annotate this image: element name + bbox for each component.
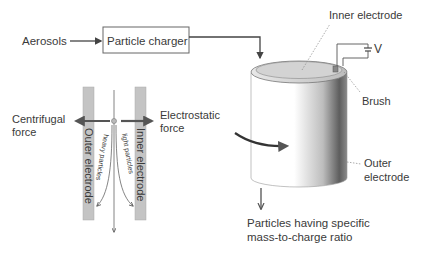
- output-label-line1: Particles having specific: [247, 217, 370, 229]
- circuit-wire-top: [337, 44, 368, 69]
- inner-electrode-callout: Inner electrode: [329, 9, 402, 21]
- inner-electrode-text: Inner electrode: [135, 128, 147, 201]
- circuit-wire-bottom: [343, 58, 368, 66]
- output-label-line2: mass-to-charge ratio: [247, 231, 352, 243]
- electrostatic-label-line2: force: [160, 122, 184, 134]
- heavy-particles-label: heavy particles: [94, 134, 110, 182]
- brush-contact: [333, 66, 338, 72]
- outer-electrode-leader: [347, 162, 361, 164]
- charger-to-device-arrow: [189, 37, 260, 58]
- aerosols-label: Aerosols: [22, 35, 67, 47]
- particle-dot: [112, 119, 117, 124]
- brush-label: Brush: [362, 95, 391, 107]
- centrifugal-label-line1: Centrifugal: [12, 113, 65, 125]
- centrifugal-label-line2: force: [12, 126, 36, 138]
- voltage-label: V: [374, 42, 382, 56]
- outer-electrode-callout-line2: electrode: [364, 171, 409, 183]
- electrostatic-label-line1: Electrostatic: [160, 109, 220, 121]
- particle-charger-label: Particle charger: [107, 35, 188, 47]
- outer-electrode-callout-line1: Outer: [364, 157, 392, 169]
- aerosol-particle-mass-analyzer-diagram: Aerosols Particle charger Outer electrod…: [0, 0, 421, 256]
- cylinder-body: [251, 73, 347, 187]
- inner-electrode-disc: [256, 62, 342, 79]
- outer-electrode-text: Outer electrode: [83, 128, 95, 204]
- cylinder-device: [251, 61, 347, 187]
- light-particles-label: light particles: [120, 133, 135, 175]
